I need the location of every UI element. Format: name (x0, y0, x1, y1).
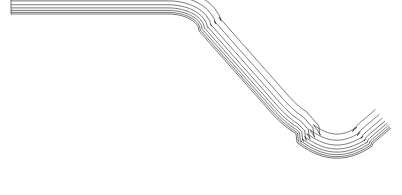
figure-background (0, 0, 402, 195)
fe-mesh-diagram: Finite element quadrilateral mesh of an … (0, 0, 402, 195)
mesh-figure-canvas: Finite element quadrilateral mesh of an … (0, 0, 402, 195)
